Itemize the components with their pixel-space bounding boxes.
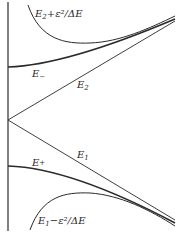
e2-label: E2 <box>76 79 89 92</box>
upper-perturbative-label: E2+ε²/ΔE <box>34 8 83 21</box>
e-plus-curve <box>8 166 175 223</box>
e1-label: E1 <box>76 149 89 162</box>
energy-level-diagram: E2+ε²/ΔE E− E2 E1 E+ E1−ε²/ΔE <box>0 0 178 233</box>
lower-perturbative-label: E1−ε²/ΔE <box>37 215 86 228</box>
e-minus-label: E− <box>31 68 45 81</box>
e1-line <box>8 120 175 220</box>
e-plus-label: E+ <box>31 157 45 168</box>
